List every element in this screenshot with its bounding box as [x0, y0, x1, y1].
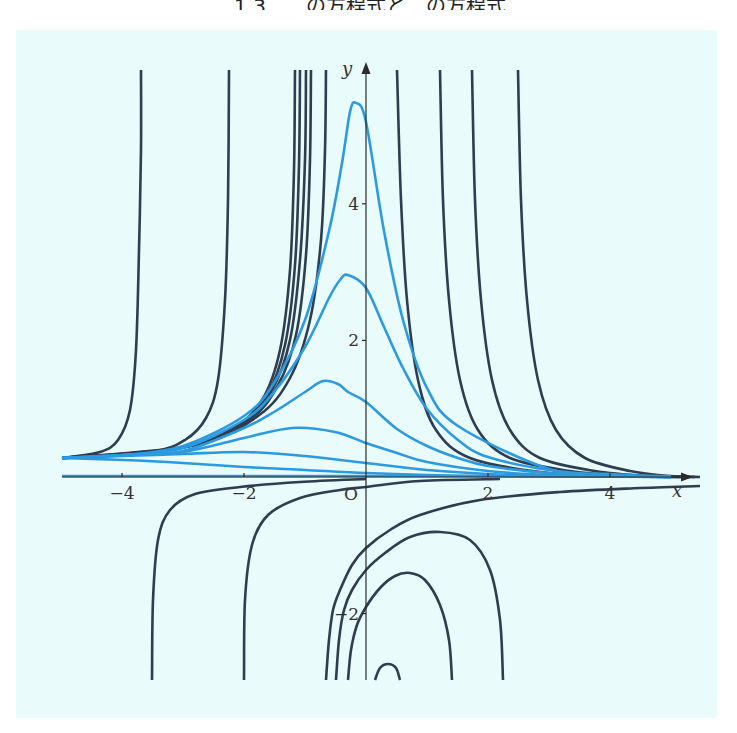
y-axis-arrow-icon	[362, 62, 371, 74]
x-tick-label: −2	[231, 483, 256, 503]
y-axis-label: y	[341, 58, 353, 79]
dark-curve-9	[440, 70, 690, 477]
dark-curve-11	[518, 70, 700, 477]
x-axis-arrow-icon	[681, 473, 693, 482]
dark-curve-10	[472, 70, 695, 477]
dark-curve-6	[62, 70, 311, 458]
dark-curve-4	[62, 70, 300, 458]
y-ticks: 42−2	[334, 194, 366, 624]
x-tick-label: 4	[605, 483, 616, 503]
dark-solution-curves	[62, 70, 700, 680]
dark-curve-17	[375, 664, 400, 680]
dark-curve-8	[397, 70, 680, 477]
dark-curve-3	[62, 70, 295, 458]
dark-curve-16	[348, 573, 452, 680]
origin-label: O	[344, 484, 358, 504]
x-tick-label: −4	[109, 483, 134, 503]
solution-curves-chart: −4−224 42−2 x y O	[0, 0, 737, 733]
dark-curve-12	[152, 479, 366, 680]
x-axis-label: x	[672, 480, 682, 501]
dark-curve-1	[62, 70, 141, 458]
y-tick-label: −2	[334, 604, 359, 624]
y-tick-label: 2	[348, 330, 359, 350]
dark-curve-13	[244, 479, 500, 680]
dark-curve-14	[326, 486, 700, 680]
dark-curve-2	[62, 70, 229, 458]
axes: −4−224 42−2 x y O	[62, 58, 693, 680]
x-tick-label: 2	[483, 483, 494, 503]
y-tick-label: 4	[348, 194, 359, 214]
dark-curve-7	[62, 70, 326, 458]
